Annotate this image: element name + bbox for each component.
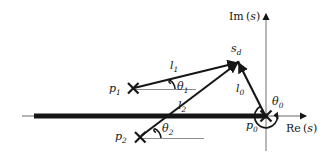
pole-marker-p2 <box>135 132 146 143</box>
point-label-p0: p0 <box>246 120 258 131</box>
angle-arc-theta0-arrowhead <box>273 112 278 120</box>
vector-label-l2: l2 <box>178 100 186 111</box>
point-label-p1: p1 <box>109 83 121 94</box>
point-label-p2: p2 <box>115 131 127 142</box>
point-marker-sd <box>236 61 240 65</box>
vector-label-l1: l1 <box>170 60 178 71</box>
angle-label-theta2: θ2 <box>162 123 173 134</box>
vector-label-l0: l0 <box>236 83 244 94</box>
figure-canvas: Im (s) Re (s) sd p0 p1 p2 l0 l1 l2 θ0 θ1… <box>0 0 324 158</box>
angle-label-theta0: θ0 <box>272 96 283 107</box>
point-label-sd: sd <box>231 43 241 54</box>
angle-arc-theta2 <box>155 129 162 139</box>
real-axis-label: Re (s) <box>286 123 317 134</box>
imaginary-axis-label: Im (s) <box>229 11 260 22</box>
angle-arc-theta1 <box>170 80 176 89</box>
angle-label-theta1: θ1 <box>177 81 188 92</box>
